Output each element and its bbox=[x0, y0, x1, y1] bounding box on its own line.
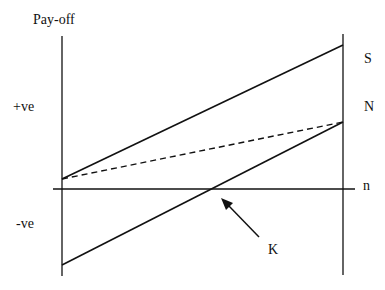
label-n: N bbox=[364, 100, 374, 114]
positive-label: +ve bbox=[13, 100, 34, 114]
arrow-k-shaft bbox=[228, 205, 259, 237]
line-n-dashed bbox=[62, 122, 343, 179]
label-s: S bbox=[364, 52, 372, 66]
y-axis-label: Pay-off bbox=[33, 13, 75, 27]
payoff-diagram bbox=[0, 0, 385, 290]
negative-label: -ve bbox=[16, 217, 34, 231]
x-axis-end-label: n bbox=[363, 179, 370, 193]
line-lower bbox=[62, 122, 343, 265]
line-s bbox=[62, 45, 343, 179]
annotation-k: K bbox=[268, 243, 278, 257]
